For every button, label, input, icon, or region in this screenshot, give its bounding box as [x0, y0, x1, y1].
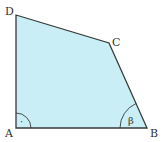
vertex-label-d: D [5, 5, 14, 18]
vertex-label-a: A [4, 127, 14, 140]
vertex-label-b: B [150, 127, 158, 140]
vertex-label-c: C [112, 36, 120, 49]
angle-a-dot: · [20, 116, 23, 127]
angle-b-label: β [128, 115, 134, 126]
quadrilateral-abcd [16, 15, 147, 128]
quadrilateral-diagram: · β D C A B [0, 0, 165, 142]
